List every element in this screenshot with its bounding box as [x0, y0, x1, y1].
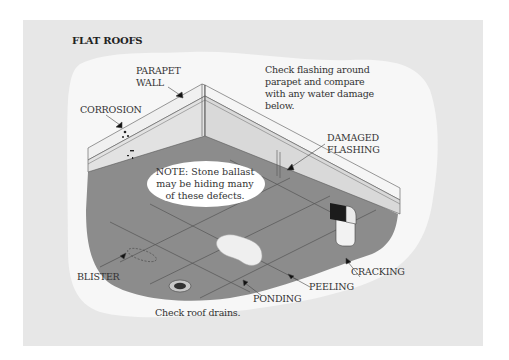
note-line: NOTE: Stone ballast [150, 166, 260, 178]
label-line: WALL [136, 77, 181, 89]
label-peeling: PEELING [309, 281, 354, 293]
label-line: DAMAGED [327, 132, 380, 144]
note-line: of these defects. [150, 190, 260, 202]
label-line: parapet and compare [265, 76, 374, 88]
diagram-title: FLAT ROOFS [72, 35, 142, 46]
roof-drain [169, 280, 191, 292]
label-line: PARAPET [136, 65, 181, 77]
label-parapet-wall: PARAPET WALL [136, 65, 181, 89]
label-damaged-flashing: DAMAGED FLASHING [327, 132, 380, 156]
label-blister: BLISTER [77, 271, 120, 283]
label-line: Check flashing around [265, 64, 374, 76]
label-ponding: PONDING [253, 293, 301, 305]
label-check-flashing: Check flashing around parapet and compar… [265, 64, 374, 112]
label-line: below. [265, 100, 374, 112]
note-line: may be hiding many [150, 178, 260, 190]
label-line: FLASHING [327, 144, 380, 156]
label-check-drains: Check roof drains. [155, 307, 240, 319]
label-cracking: CRACKING [351, 266, 405, 278]
label-line: with any water damage [265, 88, 374, 100]
label-corrosion: CORROSION [80, 104, 142, 116]
ballast-note: NOTE: Stone ballast may be hiding many o… [150, 166, 260, 202]
